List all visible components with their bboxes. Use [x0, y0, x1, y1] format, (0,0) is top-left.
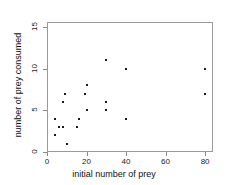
data-point — [105, 109, 107, 111]
data-point — [66, 143, 68, 145]
data-point — [105, 59, 107, 61]
y-tick-mark — [43, 69, 47, 70]
y-tick-label: 5 — [30, 103, 39, 116]
scatter-plot-figure: 020406080 051015 initial number of prey … — [0, 0, 228, 185]
x-axis-label: initial number of prey — [0, 169, 228, 179]
y-tick-label: 0 — [30, 145, 39, 158]
data-point — [84, 93, 86, 95]
x-tick-mark — [87, 152, 88, 156]
y-axis-label: number of prey consumed — [13, 15, 23, 155]
x-tick-mark — [166, 152, 167, 156]
x-tick-label: 80 — [195, 157, 215, 166]
data-point — [78, 118, 80, 120]
x-tick-label: 40 — [116, 157, 136, 166]
x-tick-mark — [205, 152, 206, 156]
x-tick-mark — [126, 152, 127, 156]
plot-data-area — [47, 22, 213, 152]
y-tick-mark — [43, 152, 47, 153]
y-tick-label: 15 — [30, 20, 39, 33]
data-point — [105, 101, 107, 103]
data-point — [204, 68, 206, 70]
y-tick-label: 10 — [30, 62, 39, 75]
data-point — [54, 118, 56, 120]
data-point — [64, 93, 66, 95]
x-tick-label: 20 — [77, 157, 97, 166]
data-point — [125, 118, 127, 120]
data-point — [62, 101, 64, 103]
data-point — [86, 84, 88, 86]
data-point — [76, 126, 78, 128]
data-point — [204, 93, 206, 95]
data-point — [62, 126, 64, 128]
data-point — [54, 134, 56, 136]
x-tick-label: 0 — [37, 157, 57, 166]
y-tick-mark — [43, 110, 47, 111]
data-point — [58, 126, 60, 128]
x-tick-label: 60 — [156, 157, 176, 166]
data-point — [86, 109, 88, 111]
y-tick-mark — [43, 27, 47, 28]
x-tick-mark — [47, 152, 48, 156]
data-point — [125, 68, 127, 70]
